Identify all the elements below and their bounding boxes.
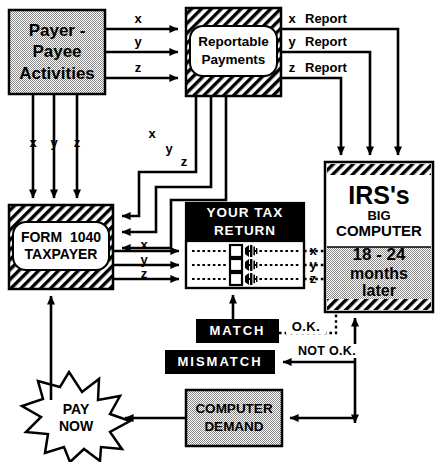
pay-now-line-2: NOW: [59, 418, 93, 436]
payer-line-3: Activities: [19, 63, 95, 84]
ok-dotted-line: [279, 314, 336, 333]
tax-return-header-line-1: YOUR TAX: [207, 204, 284, 222]
irs-months-word: months: [350, 265, 408, 283]
tax-return-checkboxes[interactable]: [230, 245, 242, 285]
match-shape[interactable]: [196, 319, 279, 343]
return-to-irs-dotted: [304, 251, 325, 279]
reportable-line-2: Payments: [202, 51, 266, 69]
irs-title: IRS's: [348, 182, 410, 209]
reportable-line-1: Reportable: [198, 33, 269, 51]
computer-demand-line-1: COMPUTER: [195, 400, 272, 418]
form1040-line-2: TAXPAYER: [25, 246, 98, 264]
irs-computer: COMPUTER: [336, 223, 422, 239]
computer-demand-line-2: DEMAND: [204, 418, 263, 436]
tax-return-header-line-2: RETURN: [214, 222, 276, 240]
pay-now-line-1: PAY: [63, 401, 89, 419]
diagram-canvas: Payer - Payee Activities Reportable Paym…: [0, 0, 441, 462]
payer-line-2: Payee: [32, 41, 81, 62]
irs-later-word: later: [362, 282, 396, 300]
mismatch-shape[interactable]: [165, 350, 275, 374]
irs-big: BIG: [367, 209, 390, 223]
payer-line-1: Payer -: [29, 20, 86, 41]
irs-months-range: 18 - 24: [353, 246, 406, 265]
form1040-line-1: FORM 1040: [21, 229, 101, 247]
